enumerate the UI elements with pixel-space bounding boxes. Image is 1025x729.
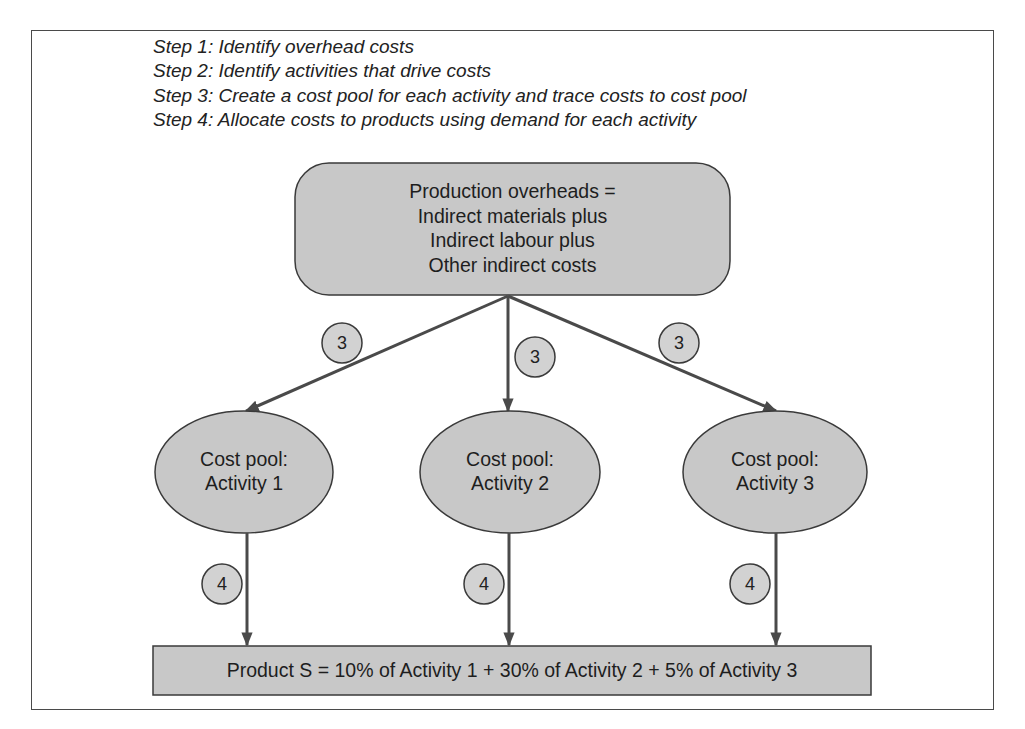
cost-pool-1-label: Cost pool: Activity 1	[155, 447, 333, 495]
badge-step3-3-label: 3	[659, 323, 699, 363]
badge-step3-1-label: 3	[322, 323, 362, 363]
cost-pool-1-activity: Activity 1	[155, 471, 333, 495]
flow-diagram	[0, 0, 1025, 729]
cost-pool-3-title: Cost pool:	[683, 447, 867, 471]
cost-pool-1-title: Cost pool:	[155, 447, 333, 471]
overheads-line-1: Production overheads =	[295, 179, 730, 204]
arrow-to-pool-1	[246, 296, 508, 411]
cost-pool-2-activity: Activity 2	[420, 471, 600, 495]
overheads-text: Production overheads = Indirect material…	[295, 179, 730, 277]
badge-step4-2-label: 4	[464, 564, 504, 604]
cost-pool-3-label: Cost pool: Activity 3	[683, 447, 867, 495]
overheads-line-3: Indirect labour plus	[295, 228, 730, 253]
overheads-line-4: Other indirect costs	[295, 253, 730, 278]
badge-step4-3-label: 4	[730, 564, 770, 604]
overheads-line-2: Indirect materials plus	[295, 204, 730, 229]
badge-step4-1-label: 4	[202, 564, 242, 604]
cost-pool-2-title: Cost pool:	[420, 447, 600, 471]
cost-pool-2-label: Cost pool: Activity 2	[420, 447, 600, 495]
result-formula: Product S = 10% of Activity 1 + 30% of A…	[153, 646, 871, 695]
cost-pool-3-activity: Activity 3	[683, 471, 867, 495]
badge-step3-2-label: 3	[515, 337, 555, 377]
